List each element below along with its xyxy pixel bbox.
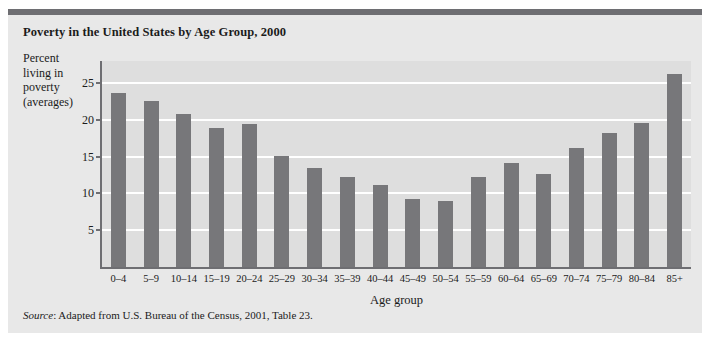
bar [274,156,289,267]
y-tick-label: 10 [82,186,94,201]
bar [209,128,224,267]
y-axis-label-line: Percent [23,51,93,66]
x-tick-label: 25–29 [269,273,295,284]
top-rule [8,9,702,15]
bar [242,124,257,267]
bar [340,177,355,267]
y-tick-label: 5 [88,223,94,238]
x-tick-label: 0–4 [110,273,126,284]
bar [144,101,159,267]
bar [536,174,551,267]
y-tick-label: 20 [82,112,94,127]
source-word: Source [23,309,53,321]
bar [405,199,420,267]
x-tick-label: 50–54 [432,273,458,284]
chart-title: Poverty in the United States by Age Grou… [23,25,286,40]
x-tick-label: 70–74 [563,273,589,284]
x-tick-label: 45–49 [400,273,426,284]
bar-series [102,61,691,267]
x-tick-label: 65–69 [531,273,557,284]
x-axis-label: Age group [102,293,691,308]
bar [471,177,486,267]
x-tick-label: 10–14 [171,273,197,284]
figure-panel: Poverty in the United States by Age Grou… [8,9,702,333]
bar [373,185,388,267]
x-tick-label: 80–84 [629,273,655,284]
bar [569,148,584,267]
y-tick-label: 25 [82,76,94,91]
bar [176,114,191,267]
bar [307,168,322,267]
bar [634,123,649,267]
x-tick-label: 60–64 [498,273,524,284]
source-text: : Adapted from U.S. Bureau of the Census… [53,309,313,321]
x-tick-label: 75–79 [596,273,622,284]
x-tick-label: 30–34 [302,273,328,284]
bar [667,74,682,267]
bar [602,133,617,267]
y-axis-label-line: (averages) [23,95,93,110]
source-note: Source: Adapted from U.S. Bureau of the … [23,309,313,321]
bar [111,93,126,267]
plot-area: 510152025 0–45–910–1415–1920–2425–2930–3… [100,61,691,269]
x-tick-label: 15–19 [203,273,229,284]
x-tick-label: 20–24 [236,273,262,284]
x-tick-label: 5–9 [143,273,159,284]
x-tick-label: 85+ [666,273,682,284]
y-tick-label: 15 [82,149,94,164]
x-tick-label: 40–44 [367,273,393,284]
x-tick-label: 35–39 [334,273,360,284]
bar [438,201,453,267]
bar [504,163,519,267]
x-tick-label: 55–59 [465,273,491,284]
